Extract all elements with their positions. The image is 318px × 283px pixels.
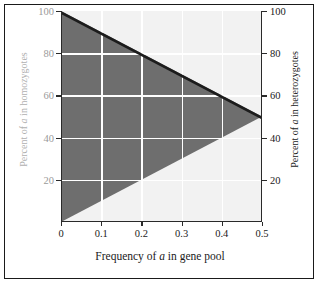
y-axis-title-left-prefix: Percent of [18, 123, 29, 166]
tick-bottom-0.4 [222, 222, 223, 226]
tick-bottom-0.2 [141, 222, 142, 226]
x-axis-title-prefix: Frequency of [95, 250, 159, 262]
plot-area [61, 11, 262, 222]
tick-left-80 [56, 53, 61, 54]
xtick-label-0.4: 0.4 [207, 228, 237, 239]
ytick-label-left-40: 40 [28, 133, 54, 144]
figure-container: 100 80 60 40 20 100 80 60 40 20 0 0.1 0.… [0, 0, 318, 283]
y-axis-title-right-prefix: Percent of [289, 125, 300, 168]
tick-right-40 [262, 138, 267, 139]
tick-left-40 [56, 138, 61, 139]
y-axis-title-right: Percent of a in heterozygotes [289, 35, 300, 185]
xtick-label-0.2: 0.2 [126, 228, 156, 239]
tick-bottom-0.3 [182, 222, 183, 226]
tick-right-100 [262, 11, 267, 12]
ytick-label-left-100: 100 [28, 6, 54, 17]
tick-bottom-0 [61, 222, 62, 226]
tick-right-80 [262, 53, 267, 54]
xtick-label-0: 0 [46, 228, 76, 239]
xtick-label-0.1: 0.1 [86, 228, 116, 239]
ytick-label-right-100: 100 [270, 6, 292, 17]
tick-right-20 [262, 180, 267, 181]
ytick-label-left-80: 80 [28, 48, 54, 59]
tick-bottom-0.5 [262, 222, 263, 226]
ytick-label-left-60: 60 [28, 90, 54, 101]
y-axis-title-left-allele: a [18, 118, 29, 123]
shaded-wedge-region [61, 11, 262, 222]
tick-left-20 [56, 180, 61, 181]
tick-left-60 [56, 95, 61, 96]
tick-bottom-0.1 [101, 222, 102, 226]
tick-left-100 [56, 11, 61, 12]
y-axis-title-right-suffix: in heterozygotes [289, 51, 300, 119]
xtick-label-0.3: 0.3 [167, 228, 197, 239]
y-axis-title-left-suffix: in homozygotes [18, 52, 29, 118]
y-axis-title-left: Percent of a in homozygotes [18, 35, 29, 185]
x-axis-title-suffix: in gene pool [165, 250, 225, 262]
xtick-label-0.5: 0.5 [247, 228, 277, 239]
ytick-label-left-20: 20 [28, 175, 54, 186]
y-axis-title-right-allele: a [289, 120, 300, 125]
tick-right-60 [262, 95, 267, 96]
x-axis-title: Frequency of a in gene pool [40, 250, 280, 262]
